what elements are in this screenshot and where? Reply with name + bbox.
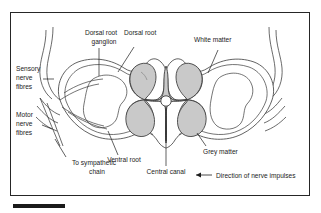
leader-sympathetic [55,139,66,157]
central-canal-circle [161,96,171,106]
motor-nerve-fibres-path [36,98,60,131]
label-dorsal-root-ganglion-line2: ganglion [92,38,117,46]
label-to-sympathetic-chain-line2: chain [89,168,105,175]
label-sensory-nerve-fibres-line2: nerve [16,74,33,81]
label-central-canal: Central canal [147,168,186,175]
label-white-matter: White matter [194,36,232,43]
label-motor-nerve-fibres-line1: Motor [16,111,34,118]
label-grey-matter: Grey matter [203,148,239,156]
label-sensory-nerve-fibres-line3: fibres [16,83,33,90]
leader-dorsal-root [118,47,134,72]
label-motor-nerve-fibres-line2: nerve [16,120,33,127]
caption-rule [13,204,65,208]
spinal-cord-diagram: Dorsal root ganglion Dorsal root White m… [0,0,321,213]
label-sensory-nerve-fibres-line1: Sensory [16,65,41,73]
label-ventral-root: Ventral root [107,156,141,163]
sympathetic-chain-branch-path [40,98,63,146]
label-motor-nerve-fibres-line3: fibres [16,129,33,136]
label-dorsal-root-ganglion-line1: Dorsal root [85,29,117,36]
figure-root: Dorsal root ganglion Dorsal root White m… [0,0,321,213]
label-dorsal-root: Dorsal root [124,29,156,36]
label-legend-direction: Direction of nerve impulses [216,172,296,180]
legend-direction-arrow [196,173,212,178]
sensory-nerve-fibres-path [40,27,60,100]
